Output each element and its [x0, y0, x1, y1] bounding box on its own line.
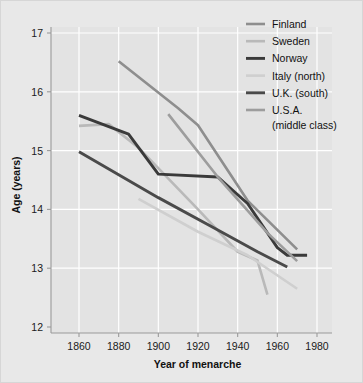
- x-axis-title: Year of menarche: [154, 358, 242, 370]
- y-tick-label: 12: [31, 321, 43, 333]
- x-tick-label: 1880: [107, 340, 131, 352]
- legend-sublabel: (middle class): [272, 119, 337, 131]
- legend-label: Norway: [272, 52, 308, 64]
- legend-label: Italy (north): [272, 70, 325, 82]
- legend-label: Sweden: [272, 35, 310, 47]
- x-tick-label: 1900: [147, 340, 171, 352]
- legend-label: Finland: [272, 18, 307, 30]
- legend-label: U.K. (south): [272, 87, 328, 99]
- x-tick-label: 1980: [305, 340, 329, 352]
- y-tick-label: 17: [31, 27, 43, 39]
- x-tick-label: 1940: [226, 340, 250, 352]
- x-tick-label: 1920: [186, 340, 210, 352]
- plot-container: 1213141516171860188019001920194019601980…: [0, 0, 363, 383]
- x-tick-label: 1960: [266, 340, 290, 352]
- y-tick-label: 14: [31, 203, 43, 215]
- menarche-age-line-chart: 1213141516171860188019001920194019601980…: [0, 0, 363, 383]
- y-tick-label: 15: [31, 145, 43, 157]
- chart-figure: 1213141516171860188019001920194019601980…: [0, 0, 363, 383]
- legend-label: U.S.A.: [272, 104, 302, 116]
- y-tick-label: 13: [31, 262, 43, 274]
- y-axis-title: Age (years): [10, 156, 22, 213]
- x-tick-label: 1860: [67, 340, 91, 352]
- y-tick-label: 16: [31, 86, 43, 98]
